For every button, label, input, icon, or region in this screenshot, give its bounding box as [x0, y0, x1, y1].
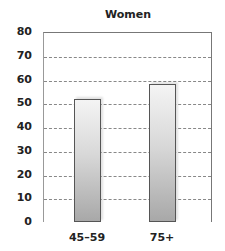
- y-tick-label: 20: [0, 168, 32, 181]
- y-tick-label: 50: [0, 96, 32, 109]
- gridline: [44, 128, 211, 129]
- y-tick-label: 30: [0, 144, 32, 157]
- y-tick-label: 40: [0, 120, 32, 133]
- y-tick-label: 0: [0, 215, 32, 228]
- gridline: [44, 57, 211, 58]
- y-tick-label: 60: [0, 73, 32, 86]
- gridline: [44, 152, 211, 153]
- y-tick-label: 80: [0, 25, 32, 38]
- gridline: [44, 81, 211, 82]
- plot-area: [43, 32, 212, 222]
- y-tick-label: 10: [0, 191, 32, 204]
- x-tick-label: 45–59: [62, 231, 112, 244]
- gridline: [44, 176, 211, 177]
- x-tick-label: 75+: [137, 231, 187, 244]
- gridline: [44, 104, 211, 105]
- bar-45–59: [74, 99, 101, 223]
- y-tick-label: 70: [0, 49, 32, 62]
- chart-title: Women: [43, 8, 213, 21]
- gridline: [44, 199, 211, 200]
- bar-75+: [149, 84, 176, 222]
